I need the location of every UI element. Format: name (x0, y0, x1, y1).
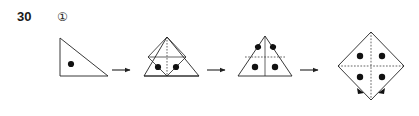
step-3-dot-3 (252, 64, 258, 70)
step-4-dot-2 (379, 53, 385, 59)
step-4-shape (338, 32, 404, 100)
step-1-dot-1 (68, 61, 74, 67)
step-4-dot-3 (357, 74, 363, 80)
step-2-dot-1 (155, 64, 161, 70)
step-2-shape (144, 37, 199, 76)
step-1-triangle-outline (60, 38, 108, 76)
figure-root: 30 ① (0, 0, 419, 116)
step-3-shape (238, 36, 292, 76)
step-2-dot-2 (173, 64, 179, 70)
step-4-dot-4 (379, 74, 385, 80)
step-4-dot-1 (357, 53, 363, 59)
step-2-triangle-outline (144, 37, 199, 76)
paper-unfolding-diagram (0, 0, 419, 116)
step-1-shape (60, 38, 108, 76)
step-3-dot-4 (272, 64, 278, 70)
